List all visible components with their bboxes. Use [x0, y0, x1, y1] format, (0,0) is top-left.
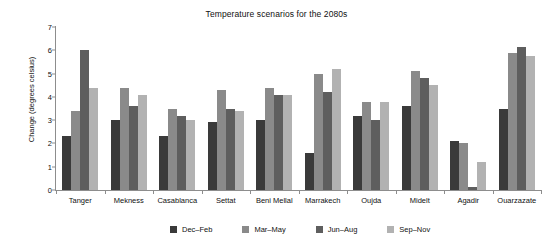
- bar-group: Mekness: [105, 27, 154, 190]
- bar[interactable]: [226, 109, 235, 191]
- x-axis-tick-mark: [396, 190, 397, 194]
- x-axis-tick-mark: [56, 190, 57, 194]
- bar[interactable]: [235, 111, 244, 190]
- bar-group: Marrakech: [299, 27, 348, 190]
- plot-area: 01234567 TangerMeknessCasablancaSettatBe…: [56, 27, 541, 190]
- bar[interactable]: [371, 120, 380, 190]
- legend-label: Sep–Nov: [399, 225, 430, 234]
- legend-swatch-icon: [316, 226, 323, 233]
- bar[interactable]: [305, 153, 314, 190]
- bar[interactable]: [208, 122, 217, 190]
- bar[interactable]: [450, 141, 459, 190]
- legend-item[interactable]: Dec–Feb: [170, 225, 212, 234]
- x-axis-tick-mark: [541, 190, 542, 194]
- bar[interactable]: [265, 88, 274, 190]
- x-axis-tick-label: Ouarzazate: [497, 196, 536, 205]
- bar[interactable]: [477, 162, 486, 190]
- bar[interactable]: [256, 120, 265, 190]
- bar[interactable]: [517, 47, 526, 190]
- bar[interactable]: [526, 56, 535, 190]
- x-axis-tick-label: Settat: [216, 196, 236, 205]
- x-axis-tick-mark: [105, 190, 106, 194]
- x-axis-tick-label: Oujda: [361, 196, 381, 205]
- chart-screenshot: Temperature scenarios for the 2080s Chan…: [0, 0, 553, 244]
- x-axis-tick-label: Agadir: [457, 196, 479, 205]
- legend-item[interactable]: Sep–Nov: [387, 225, 430, 234]
- x-axis-tick-mark: [153, 190, 154, 194]
- bar[interactable]: [380, 102, 389, 190]
- bar[interactable]: [217, 90, 226, 190]
- bar-group: Casablanca: [153, 27, 202, 190]
- bar[interactable]: [120, 88, 129, 190]
- bar[interactable]: [508, 53, 517, 190]
- bar[interactable]: [314, 74, 323, 190]
- bar[interactable]: [411, 71, 420, 190]
- legend-item[interactable]: Jun–Aug: [316, 225, 358, 234]
- bar[interactable]: [283, 95, 292, 190]
- x-axis-tick-label: Beni Mellal: [256, 196, 293, 205]
- y-axis-title: Change (degrees celsius): [27, 20, 36, 180]
- legend-swatch-icon: [242, 226, 249, 233]
- legend-swatch-icon: [387, 226, 394, 233]
- bar[interactable]: [159, 136, 168, 190]
- bar[interactable]: [274, 95, 283, 190]
- legend-label: Jun–Aug: [328, 225, 358, 234]
- legend-label: Mar–May: [254, 225, 285, 234]
- x-axis-tick-mark: [299, 190, 300, 194]
- bar[interactable]: [71, 111, 80, 190]
- x-axis-tick-label: Marrakech: [305, 196, 340, 205]
- bar[interactable]: [332, 69, 341, 190]
- bar[interactable]: [80, 50, 89, 190]
- bar[interactable]: [62, 136, 71, 190]
- bar[interactable]: [323, 92, 332, 190]
- x-axis-tick-mark: [347, 190, 348, 194]
- bar[interactable]: [362, 102, 371, 190]
- bar-group: Agadir: [444, 27, 493, 190]
- chart-title: Temperature scenarios for the 2080s: [0, 9, 553, 19]
- bar[interactable]: [402, 106, 411, 190]
- x-axis-tick-mark: [493, 190, 494, 194]
- bar-group: Midelt: [396, 27, 445, 190]
- x-axis-tick-mark: [202, 190, 203, 194]
- bar[interactable]: [89, 88, 98, 190]
- bar-group: Oujda: [347, 27, 396, 190]
- legend-item[interactable]: Mar–May: [242, 225, 285, 234]
- bar[interactable]: [459, 143, 468, 190]
- bar-group: Ouarzazate: [493, 27, 542, 190]
- bar[interactable]: [429, 85, 438, 190]
- bar-group: Settat: [202, 27, 251, 190]
- x-axis-tick-label: Casablanca: [157, 196, 197, 205]
- bar[interactable]: [168, 109, 177, 191]
- x-axis-tick-label: Tanger: [69, 196, 92, 205]
- bar-group: Beni Mellal: [250, 27, 299, 190]
- bar[interactable]: [468, 187, 477, 190]
- x-axis-tick-label: Mekness: [114, 196, 144, 205]
- bar[interactable]: [186, 120, 195, 190]
- legend-swatch-icon: [170, 226, 177, 233]
- bar[interactable]: [499, 109, 508, 191]
- x-axis-tick-label: Midelt: [410, 196, 430, 205]
- x-axis-tick-mark: [250, 190, 251, 194]
- bar[interactable]: [129, 106, 138, 190]
- bar[interactable]: [353, 116, 362, 191]
- legend-label: Dec–Feb: [182, 225, 212, 234]
- bar[interactable]: [111, 120, 120, 190]
- x-axis-tick-mark: [444, 190, 445, 194]
- bar[interactable]: [177, 116, 186, 191]
- chart-legend: Dec–FebMar–MayJun–AugSep–Nov: [170, 225, 460, 234]
- bar[interactable]: [420, 78, 429, 190]
- bar-group: Tanger: [56, 27, 105, 190]
- bar[interactable]: [138, 95, 147, 190]
